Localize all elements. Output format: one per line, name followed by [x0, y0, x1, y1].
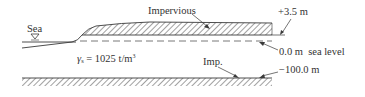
- imp-leader: [218, 67, 236, 76]
- upper-impervious-layer: [82, 22, 272, 35]
- density-exponent: 3: [132, 53, 135, 59]
- sea-level-leader: [262, 43, 278, 50]
- sea-label: Sea: [27, 24, 42, 35]
- impervious-label: Impervious: [148, 6, 196, 17]
- arrowhead: [259, 74, 265, 78]
- density-label: γs = 1025 t/m3: [77, 54, 135, 65]
- density-subscript: s: [81, 57, 84, 64]
- elevation-bottom-leader: [262, 72, 278, 76]
- density-value: = 1025 t/m: [84, 53, 133, 64]
- imp-label: Imp.: [203, 57, 223, 68]
- sea-level-label: 0.0 m sea level: [279, 47, 345, 58]
- elevation-top-label: +3.5 m: [278, 7, 308, 18]
- water-surface-icon: [31, 34, 39, 39]
- elevation-bottom-label: −100.0 m: [279, 65, 319, 76]
- lower-impervious-layer: [22, 78, 272, 86]
- elevation-top-leader: [282, 19, 291, 33]
